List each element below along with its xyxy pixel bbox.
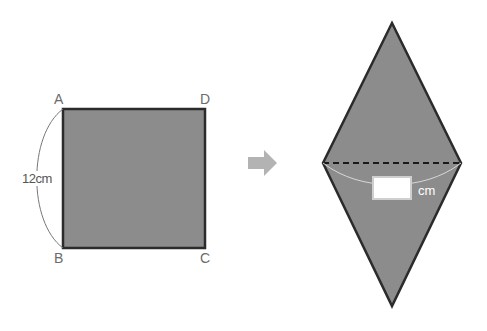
side-length-label: 12cm	[22, 171, 52, 186]
rhombus-shape	[323, 23, 461, 306]
answer-input-box[interactable]	[372, 176, 412, 200]
square-abcd	[63, 109, 205, 248]
figure-canvas	[0, 0, 487, 331]
vertex-a-label: A	[54, 91, 63, 107]
right-arrow-icon	[248, 150, 277, 176]
vertex-b-label: B	[54, 250, 63, 266]
vertex-d-label: D	[200, 91, 210, 107]
unit-label: cm	[418, 183, 435, 198]
vertex-c-label: C	[200, 250, 210, 266]
